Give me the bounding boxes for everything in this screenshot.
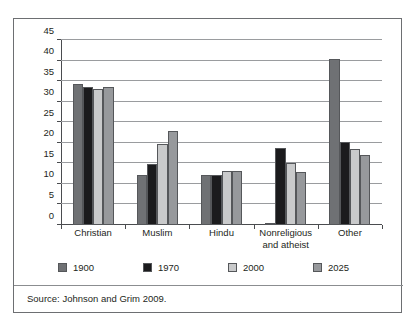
figure-frame: 051015202530354045 ChristianMuslimHinduN… bbox=[13, 18, 402, 313]
bar bbox=[329, 59, 339, 226]
legend-swatch-icon bbox=[58, 263, 67, 272]
legend-item-2025[interactable]: 2025 bbox=[299, 263, 384, 273]
bar-group bbox=[318, 40, 382, 225]
y-tick-label: 0 bbox=[49, 211, 54, 221]
category-axis-labels: ChristianMuslimHinduNonreligiousand athe… bbox=[61, 227, 382, 250]
x-tick-mark bbox=[382, 225, 383, 229]
bar bbox=[147, 164, 157, 225]
legend-label: 2000 bbox=[243, 263, 264, 273]
y-tick-label: 25 bbox=[43, 108, 54, 118]
bar bbox=[103, 87, 113, 225]
bar bbox=[275, 148, 285, 225]
bar-group bbox=[254, 40, 318, 225]
bar bbox=[83, 87, 93, 225]
bar-groups bbox=[61, 40, 382, 225]
bar-group bbox=[189, 40, 253, 225]
bar-set bbox=[201, 40, 242, 225]
bar bbox=[211, 175, 221, 225]
bar bbox=[286, 163, 296, 225]
category-label: Muslim bbox=[125, 227, 189, 250]
bar bbox=[201, 175, 211, 225]
y-tick-label: 20 bbox=[43, 129, 54, 139]
category-label: Other bbox=[318, 227, 382, 250]
y-tick-label: 30 bbox=[43, 87, 54, 97]
source-divider bbox=[14, 285, 403, 286]
bar bbox=[73, 84, 83, 225]
bar-set bbox=[265, 40, 306, 225]
source-note: Source: Johnson and Grim 2009. bbox=[27, 293, 166, 304]
category-label: Nonreligiousand atheist bbox=[254, 227, 318, 250]
legend-item-1970[interactable]: 1970 bbox=[129, 263, 214, 273]
legend-swatch-icon bbox=[313, 263, 322, 272]
bar bbox=[350, 149, 360, 225]
bar bbox=[157, 144, 167, 225]
bar bbox=[232, 171, 242, 225]
bar bbox=[137, 175, 147, 225]
plot-area: 051015202530354045 bbox=[14, 19, 403, 235]
bar bbox=[360, 155, 370, 225]
bar bbox=[340, 142, 350, 225]
y-tick-label: 10 bbox=[43, 170, 54, 180]
bar bbox=[168, 131, 178, 225]
bar bbox=[296, 172, 306, 225]
y-tick-label: 40 bbox=[43, 46, 54, 56]
bar bbox=[222, 171, 232, 225]
legend-label: 2025 bbox=[328, 263, 349, 273]
bar-set bbox=[137, 40, 178, 225]
legend-label: 1970 bbox=[158, 263, 179, 273]
plot-canvas: 051015202530354045 bbox=[61, 40, 382, 225]
category-label: Christian bbox=[61, 227, 125, 250]
legend-label: 1900 bbox=[73, 263, 94, 273]
bar-set bbox=[329, 40, 370, 225]
bar bbox=[93, 89, 103, 225]
legend-swatch-icon bbox=[228, 263, 237, 272]
bar bbox=[265, 223, 275, 225]
bar-set bbox=[73, 40, 114, 225]
y-tick-label: 15 bbox=[43, 149, 54, 159]
chart-legend: 1900197020002025 bbox=[44, 263, 384, 273]
y-tick-label: 45 bbox=[43, 26, 54, 36]
legend-item-1900[interactable]: 1900 bbox=[44, 263, 129, 273]
y-tick-label: 5 bbox=[49, 190, 54, 200]
legend-item-2000[interactable]: 2000 bbox=[214, 263, 299, 273]
bar-group bbox=[61, 40, 125, 225]
bar-group bbox=[125, 40, 189, 225]
y-tick-label: 35 bbox=[43, 67, 54, 77]
legend-swatch-icon bbox=[143, 263, 152, 272]
category-label: Hindu bbox=[189, 227, 253, 250]
